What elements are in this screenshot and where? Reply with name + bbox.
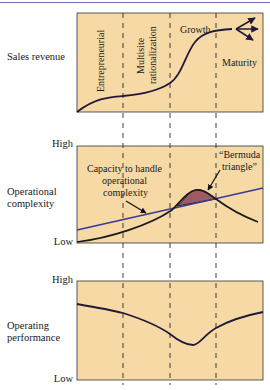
performance-label-line1: Operating xyxy=(7,320,49,332)
performance-label-line2: performance xyxy=(7,332,60,344)
performance-high-label: High xyxy=(33,274,73,285)
stage-label-rationalization: rationalization xyxy=(147,26,158,84)
capacity-label-line2: operational xyxy=(102,175,147,186)
bermuda-label-line2: triangle” xyxy=(222,161,257,172)
sales-revenue-label: Sales revenue xyxy=(7,51,65,63)
complexity-low-label: Low xyxy=(33,236,73,247)
performance-low-label: Low xyxy=(33,373,73,384)
complexity-high-label: High xyxy=(33,138,73,149)
capacity-label-line1: Capacity to handle xyxy=(87,163,163,174)
stage-label-maturity: Maturity xyxy=(222,57,257,68)
stage-label-multisite: Multisite xyxy=(135,37,146,74)
complexity-label-line1: Operational xyxy=(7,186,57,198)
stage-label-entrepreneurial: Entrepreneurial xyxy=(95,30,106,92)
capacity-label-line3: complexity xyxy=(103,187,148,198)
stage-label-growth: Growth xyxy=(180,24,211,35)
bermuda-label-line1: “Bermuda xyxy=(219,149,261,160)
complexity-label-line2: complexity xyxy=(7,198,54,210)
